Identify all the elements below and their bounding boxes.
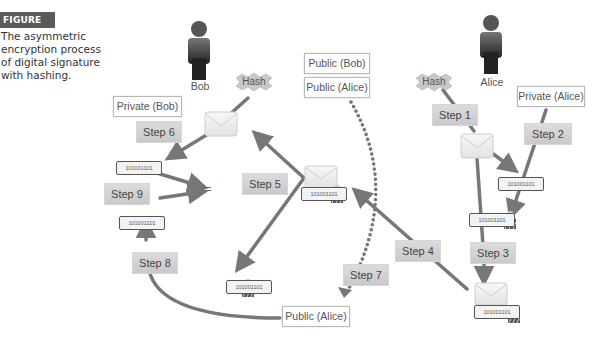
step-9: Step 9 xyxy=(104,183,150,205)
alice-person-icon xyxy=(480,15,502,74)
hash-value-box-alice: 101001101 xyxy=(498,177,544,191)
key-private-bob: Private (Bob) xyxy=(113,96,182,117)
alice-label: Alice xyxy=(477,76,507,88)
key-public-alice-top: Public (Alice) xyxy=(304,77,370,98)
bob-person-icon xyxy=(188,21,210,80)
key-public-alice-bottom: Public (Alice) xyxy=(282,306,350,327)
compare-symbol: ?= xyxy=(200,184,211,195)
bob-label: Bob xyxy=(186,80,214,92)
hash-label-left: Hash xyxy=(236,75,272,89)
connector-lines xyxy=(0,0,613,341)
envelope-bob-icon xyxy=(205,112,237,136)
envelope-mid-icon xyxy=(305,166,337,188)
step-6: Step 6 xyxy=(136,121,182,143)
hash-label-right: Hash xyxy=(416,75,452,89)
step-3: Step 3 xyxy=(470,242,516,264)
step-4: Step 4 xyxy=(395,240,441,262)
hash-value-box-bob-computed: 101001101 xyxy=(119,216,165,230)
envelope-bottom-icon xyxy=(475,283,507,305)
hash-value-box-bottom-right: 101001101 xyxy=(474,305,520,319)
step-5: Step 5 xyxy=(242,173,288,195)
step-7: Step 7 xyxy=(343,264,389,286)
step-1: Step 1 xyxy=(432,104,478,126)
hash-value-box-bottom-left: 101001101 xyxy=(226,280,272,294)
key-public-bob: Public (Bob) xyxy=(304,53,370,74)
key-private-alice: Private (Alice) xyxy=(517,86,585,107)
envelope-alice-icon xyxy=(461,134,493,158)
hash-value-box-mid: 101001101 xyxy=(301,187,347,201)
hash-value-box-alice-signed: 101001101 xyxy=(469,213,515,227)
hash-value-box-bob-decrypted: 101001101 xyxy=(116,161,162,175)
step-8: Step 8 xyxy=(132,252,178,274)
step-2: Step 2 xyxy=(524,123,572,145)
